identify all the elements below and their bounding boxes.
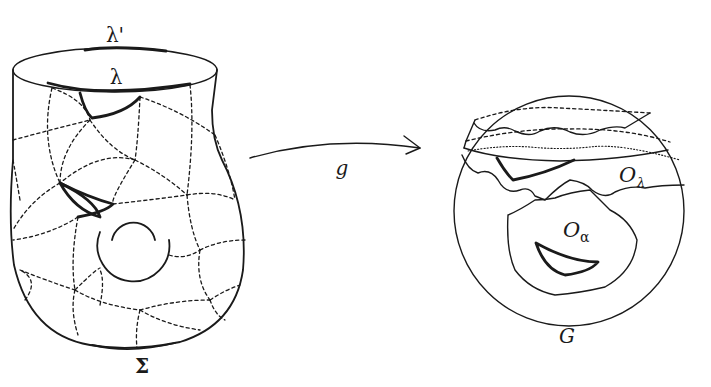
O-alpha-region (508, 190, 637, 295)
label-g: g (336, 156, 349, 180)
svg-text:O: O (619, 163, 636, 187)
wavy-band-solid (474, 113, 650, 135)
svg-text:O: O (563, 218, 580, 242)
label-O-lambda: O λ (619, 163, 645, 190)
surface-sigma (11, 48, 245, 349)
sphere-lower-crescent (536, 243, 598, 275)
lambda-prime-arc (85, 48, 166, 51)
svg-text:α: α (580, 229, 590, 245)
map-arrow (250, 136, 420, 158)
handle-circle-outer (97, 232, 169, 281)
svg-text:λ: λ (636, 175, 645, 190)
surface-outline (11, 70, 244, 348)
handle-circle-inner (112, 223, 155, 240)
label-lambda: λ (110, 65, 123, 89)
band-left-edge (464, 120, 475, 148)
label-sigma: Σ (135, 354, 149, 378)
label-O-alpha: O α (563, 218, 590, 245)
bottom-edge-thick (92, 343, 175, 349)
group-sphere-G (454, 96, 684, 326)
label-G: G (559, 324, 575, 348)
dashed-tessellation (13, 85, 245, 348)
top-crescent (80, 93, 140, 118)
label-lambda-prime: λ' (106, 23, 124, 47)
arrow-head-icon (404, 136, 420, 154)
diagram-canvas: λ' λ Σ g O λ O α G (0, 0, 711, 387)
